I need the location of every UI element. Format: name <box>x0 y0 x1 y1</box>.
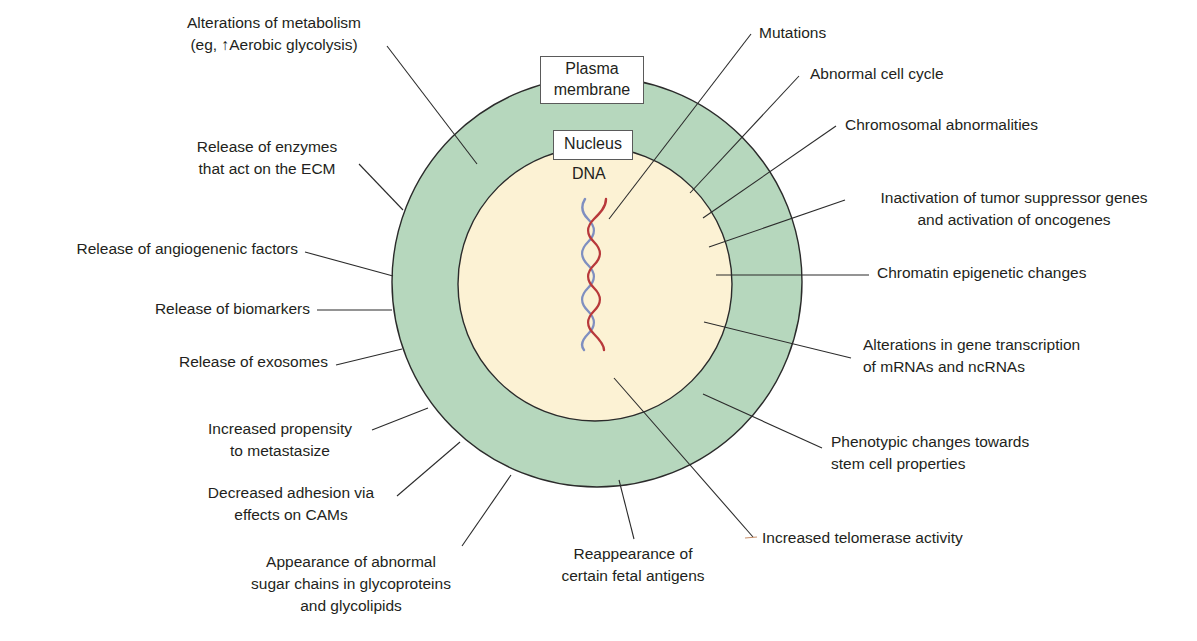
label-enzymes-line2: that act on the ECM <box>182 158 352 180</box>
label-cell-cycle: Abnormal cell cycle <box>810 63 944 85</box>
label-telomerase: Increased telomerase activity <box>762 527 963 549</box>
label-enzymes-line1: Release of enzymes <box>182 136 352 158</box>
label-sugar-chains-line2: sugar chains in glycoproteins <box>238 573 464 595</box>
label-cell-cycle-text: Abnormal cell cycle <box>810 63 944 85</box>
label-angiogenic-factors-text: Release of angiogenenic factors <box>20 238 298 260</box>
label-adhesion-line1: Decreased adhesion via <box>188 482 394 504</box>
label-transcription-line2: of mRNAs and ncRNAs <box>863 356 1080 378</box>
label-adhesion-line2: effects on CAMs <box>188 504 394 526</box>
label-transcription-line1: Alterations in gene transcription <box>863 334 1080 356</box>
label-tumor-suppressor-line1: Inactivation of tumor suppressor genes <box>851 187 1177 209</box>
label-angiogenic-factors: Release of angiogenenic factors <box>20 238 298 260</box>
plasma-membrane-label: Plasma membrane <box>540 56 644 104</box>
label-biomarkers-text: Release of biomarkers <box>100 298 310 320</box>
label-phenotypic-line1: Phenotypic changes towards <box>831 431 1029 453</box>
label-chromosomal-text: Chromosomal abnormalities <box>845 114 1038 136</box>
plasma-membrane-label-line2: membrane <box>541 79 643 100</box>
nucleus-label: Nucleus <box>553 130 633 160</box>
label-fetal-antigens-line2: certain fetal antigens <box>545 565 721 587</box>
dna-label: DNA <box>572 165 606 183</box>
label-phenotypic: Phenotypic changes towards stem cell pro… <box>831 431 1029 475</box>
label-sugar-chains-line1: Appearance of abnormal <box>238 551 464 573</box>
label-fetal-antigens: Reappearance of certain fetal antigens <box>545 543 721 587</box>
label-mutations-text: Mutations <box>759 22 826 44</box>
label-telomerase-text: Increased telomerase activity <box>762 527 963 549</box>
leader-line-telomerase-tick <box>745 537 757 538</box>
nucleus-label-text: Nucleus <box>564 135 622 152</box>
label-metastasize-line2: to metastasize <box>188 440 372 462</box>
label-metabolism: Alterations of metabolism (eg, ↑Aerobic … <box>170 12 378 56</box>
plasma-membrane-label-line1: Plasma <box>541 58 643 79</box>
label-tumor-suppressor: Inactivation of tumor suppressor genes a… <box>851 187 1177 231</box>
label-exosomes-text: Release of exosomes <box>120 351 328 373</box>
label-mutations: Mutations <box>759 22 826 44</box>
label-metabolism-line1: Alterations of metabolism <box>170 12 378 34</box>
label-exosomes: Release of exosomes <box>120 351 328 373</box>
label-sugar-chains: Appearance of abnormal sugar chains in g… <box>238 551 464 617</box>
label-fetal-antigens-line1: Reappearance of <box>545 543 721 565</box>
label-chromosomal: Chromosomal abnormalities <box>845 114 1038 136</box>
label-sugar-chains-line3: and glycolipids <box>238 595 464 617</box>
label-adhesion: Decreased adhesion via effects on CAMs <box>188 482 394 526</box>
label-metastasize: Increased propensity to metastasize <box>188 418 372 462</box>
label-phenotypic-line2: stem cell properties <box>831 453 1029 475</box>
label-tumor-suppressor-line2: and activation of oncogenes <box>851 209 1177 231</box>
label-metabolism-line2: (eg, ↑Aerobic glycolysis) <box>170 34 378 56</box>
label-transcription: Alterations in gene transcription of mRN… <box>863 334 1080 378</box>
label-chromatin-text: Chromatin epigenetic changes <box>877 262 1086 284</box>
label-chromatin: Chromatin epigenetic changes <box>877 262 1086 284</box>
label-metastasize-line1: Increased propensity <box>188 418 372 440</box>
nucleus-circle <box>458 147 732 421</box>
label-enzymes: Release of enzymes that act on the ECM <box>182 136 352 180</box>
label-biomarkers: Release of biomarkers <box>100 298 310 320</box>
leader-line-fetal-antigens <box>619 480 634 539</box>
